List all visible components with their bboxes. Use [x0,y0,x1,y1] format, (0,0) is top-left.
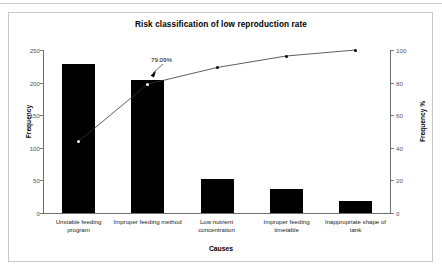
x-category-label-2-line2: concentration [182,226,251,234]
y-axis-title-left: Frequency [25,92,32,152]
x-category-label-1-line1: Improper feeding method [113,218,182,226]
x-category-label-1: Improper feeding method [113,218,182,226]
x-category-label-2-line1: Low nutrient [182,218,251,226]
y2-tick-label-0: 0 [396,210,422,217]
y2-tick-label-20: 20 [396,177,422,184]
y-tickmark-50 [40,180,43,181]
y-axis-title-right: Frequency % [419,92,426,152]
y2-tickmark-20 [391,180,394,181]
cumulative-marker-1 [146,83,149,86]
x-category-label-0-line1: Unstable feeding [44,218,113,226]
x-category-label-4-line2: tank [321,226,390,234]
y2-tick-label-80: 80 [396,80,422,87]
y2-tickmark-40 [391,148,394,149]
cumulative-marker-0 [77,140,80,143]
x-category-label-3: Improper feeding timetable [252,218,321,233]
x-axis-line [43,213,391,214]
cumulative-marker-4 [354,49,357,52]
x-category-label-4: Inappropriate shape of tank [321,218,390,233]
y2-tickmark-80 [391,83,394,84]
y-tickmark-0 [40,213,43,214]
x-category-label-2: Low nutrient concentration [182,218,251,233]
chart-title: Risk classification of low reproduction … [0,20,442,29]
y2-tick-label-100: 100 [396,47,422,54]
annotation-cumulative-percent: 79.09% [151,56,172,63]
y-tickmark-150 [40,115,43,116]
y-axis-line-right [390,50,391,214]
y2-tickmark-0 [391,213,394,214]
bar-improper-feeding-timetable [270,189,303,213]
x-axis-title: Causes [0,245,442,252]
y-tick-label-50: 50 [14,177,40,184]
y2-tickmark-100 [391,50,394,51]
page-top-rule [0,3,442,4]
x-category-label-3-line1: Improper feeding [252,218,321,226]
plot-area [44,50,390,213]
bar-unstable-feeding-program [62,64,95,213]
y-tick-label-0: 0 [14,210,40,217]
cumulative-marker-3 [285,55,288,58]
bar-inappropriate-shape-of-tank [339,201,372,213]
y2-tickmark-60 [391,115,394,116]
x-category-label-0: Unstable feeding program [44,218,113,233]
bar-low-nutrient-concentration [201,179,234,213]
bar-improper-feeding-method [131,80,164,213]
x-category-label-3-line2: timetable [252,226,321,234]
y-tick-label-200: 200 [14,80,40,87]
y-tickmark-250 [40,50,43,51]
y-tickmark-100 [40,148,43,149]
y-tickmark-200 [40,83,43,84]
chart-screenshot: Risk classification of low reproduction … [0,0,442,270]
x-category-label-4-line1: Inappropriate shape of [321,218,390,226]
cumulative-marker-2 [216,66,219,69]
x-category-label-0-line2: program [44,226,113,234]
y-tick-label-250: 250 [14,47,40,54]
